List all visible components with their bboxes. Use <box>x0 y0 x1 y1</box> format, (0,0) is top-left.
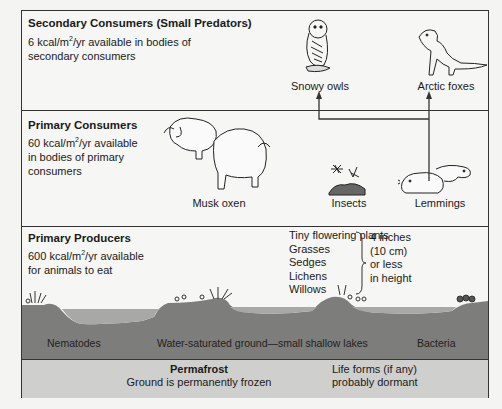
permafrost-subtitle: Ground is permanently frozen <box>99 376 299 388</box>
permafrost-life-note: Life forms (if any) probably dormant <box>332 363 418 389</box>
ground-label-center: Water-saturated ground—small shallow lak… <box>157 337 368 349</box>
height-note: 4 inches (10 cm) or less in height <box>370 231 412 285</box>
permafrost-section: Permafrost Ground is permanently frozen … <box>22 359 488 398</box>
permafrost-title: Permafrost <box>119 363 279 375</box>
arrowhead-owl-icon <box>316 91 322 99</box>
primary-producers-section: Primary Producers 600 kcal/m2/yr availab… <box>22 227 488 359</box>
arrow-lemming-to-owl <box>319 95 429 119</box>
ground-fill <box>22 297 488 359</box>
food-web-diagram: Secondary Consumers (Small Predators) 6 … <box>21 10 489 398</box>
food-chain-arrows <box>22 11 488 211</box>
plants-icon <box>26 285 475 303</box>
arrowhead-fox-icon <box>426 91 432 99</box>
ground-label-right: Bacteria <box>417 337 456 349</box>
ground-label-left: Nematodes <box>47 337 101 349</box>
primary-producers-title: Primary Producers <box>28 232 131 244</box>
primary-producers-desc: 600 kcal/m2/yr available for animals to … <box>28 246 144 277</box>
